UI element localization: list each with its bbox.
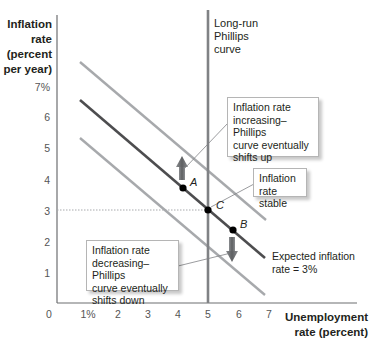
y-tick: 7%: [20, 81, 50, 93]
note-inflation-increasing: Inflation rate increasing–Phillips curve…: [227, 97, 319, 157]
x-tick: 3: [136, 308, 160, 320]
leader-line-up: [185, 123, 228, 168]
arrow-down-icon: [226, 237, 238, 262]
origin-tick: 0: [46, 308, 52, 320]
arrow-up-icon: [176, 156, 188, 180]
point-b: [229, 226, 236, 233]
lrpc-label: Long-run Phillips curve: [214, 17, 258, 56]
point-c-label: C: [216, 199, 224, 211]
x-tick: 2: [106, 308, 130, 320]
point-a: [179, 184, 186, 191]
point-b-label: B: [240, 218, 247, 230]
y-tick: 6: [20, 111, 50, 123]
expected-inflation-label: Expected inflation rate = 3%: [272, 250, 355, 276]
note-inflation-stable: Inflation rate stable: [253, 168, 307, 197]
x-tick: 4: [166, 308, 190, 320]
point-a-label: A: [190, 176, 197, 188]
note-inflation-decreasing: Inflation rate decreasing–Phillips curve…: [86, 240, 179, 291]
y-tick: 3: [20, 205, 50, 217]
chart-plot-area: [0, 0, 375, 350]
y-tick: 1: [20, 267, 50, 279]
x-tick: 5: [196, 308, 220, 320]
y-tick: 4: [20, 174, 50, 186]
x-axis-label: Unemployment rate (percent): [280, 310, 368, 340]
x-tick: 6: [227, 308, 251, 320]
x-tick: 1%: [76, 308, 100, 320]
y-axis-label: Inflation rate (percent per year): [0, 17, 52, 77]
y-tick: 5: [20, 142, 50, 154]
y-tick: 2: [20, 236, 50, 248]
x-tick: 7: [257, 308, 281, 320]
phillips-curve-chart: Inflation rate (percent per year) Unempl…: [0, 0, 375, 350]
point-c: [204, 206, 211, 213]
